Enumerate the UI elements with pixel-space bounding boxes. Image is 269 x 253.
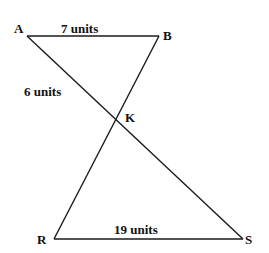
vertex-label-A: A	[14, 21, 24, 36]
triangle-diagram: A B K R S 7 units 6 units 19 units	[0, 0, 269, 253]
vertex-label-S: S	[245, 232, 252, 247]
segment-AS	[27, 36, 243, 239]
vertex-label-R: R	[37, 232, 47, 247]
measure-AK: 6 units	[24, 84, 61, 99]
measure-RS: 19 units	[114, 222, 158, 237]
measure-AB: 7 units	[61, 21, 98, 36]
vertex-label-K: K	[125, 110, 136, 125]
vertex-label-B: B	[163, 28, 172, 43]
segment-BR	[54, 36, 159, 239]
